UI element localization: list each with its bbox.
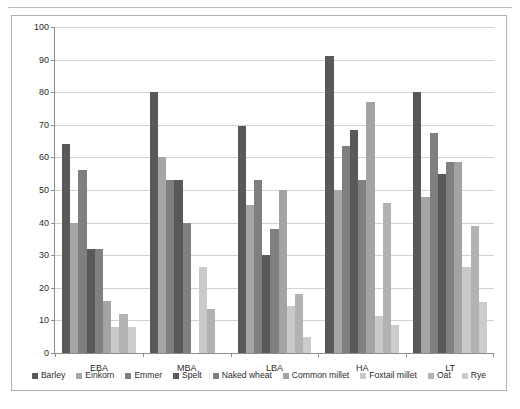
bar-oat-lt[interactable]: [471, 226, 479, 353]
legend-item-emmer[interactable]: Emmer: [125, 371, 162, 380]
legend-item-foxtail-millet[interactable]: Foxtail millet: [360, 371, 417, 380]
legend-label: Spelt: [182, 371, 202, 380]
bar-einkorn-lba[interactable]: [246, 205, 254, 353]
bar-naked-wheat-lba[interactable]: [270, 229, 278, 353]
legend-item-spelt[interactable]: Spelt: [173, 371, 202, 380]
bar-naked-wheat-lt[interactable]: [446, 162, 454, 353]
bar-einkorn-eba[interactable]: [70, 223, 78, 353]
y-axis-tick-label: 20: [39, 283, 49, 292]
bar-group-lt: LT: [406, 27, 494, 353]
legend-swatch-icon: [283, 373, 289, 379]
bar-group-ha: HA: [318, 27, 406, 353]
bar-rye-lba[interactable]: [303, 337, 311, 353]
bar-rye-lt[interactable]: [479, 302, 487, 353]
x-axis-tick-mark: [318, 353, 319, 357]
top-divider-rule: [8, 7, 512, 8]
legend-swatch-icon: [125, 373, 131, 379]
bar-group-mba: MBA: [143, 27, 231, 353]
legend-swatch-icon: [360, 373, 366, 379]
chart-legend: BarleyEinkornEmmerSpeltNaked wheatCommon…: [12, 371, 506, 380]
y-axis-tick-label: 50: [39, 186, 49, 195]
bar-foxtail-millet-ha[interactable]: [375, 316, 383, 353]
legend-label: Common millet: [292, 371, 349, 380]
legend-item-common-millet[interactable]: Common millet: [283, 371, 349, 380]
bar-rye-ha[interactable]: [391, 325, 399, 353]
y-axis-tick-label: 10: [39, 316, 49, 325]
legend-label: Oat: [437, 371, 451, 380]
bar-spelt-lba[interactable]: [262, 255, 270, 353]
legend-swatch-icon: [462, 373, 468, 379]
x-axis-tick-mark: [493, 353, 494, 357]
y-axis-tick-label: 90: [39, 55, 49, 64]
x-axis-tick-mark: [406, 353, 407, 357]
bar-emmer-mba[interactable]: [166, 180, 174, 353]
bar-einkorn-lt[interactable]: [421, 197, 429, 353]
bar-oat-eba[interactable]: [119, 314, 127, 353]
bar-group-lba: LBA: [231, 27, 319, 353]
bar-naked-wheat-ha[interactable]: [358, 180, 366, 353]
bar-barley-lt[interactable]: [413, 92, 421, 353]
legend-item-einkorn[interactable]: Einkorn: [76, 371, 114, 380]
bar-foxtail-millet-lt[interactable]: [462, 267, 470, 353]
legend-label: Foxtail millet: [369, 371, 417, 380]
y-axis-tick-label: 60: [39, 153, 49, 162]
bar-einkorn-ha[interactable]: [334, 190, 342, 353]
bar-barley-eba[interactable]: [62, 144, 70, 353]
legend-item-rye[interactable]: Rye: [462, 371, 486, 380]
legend-swatch-icon: [32, 373, 38, 379]
y-axis-tick-label: 30: [39, 251, 49, 260]
bar-einkorn-mba[interactable]: [158, 157, 166, 353]
bar-naked-wheat-eba[interactable]: [95, 249, 103, 353]
bar-barley-lba[interactable]: [238, 126, 246, 353]
bar-foxtail-millet-eba[interactable]: [111, 327, 119, 353]
legend-label: Rye: [471, 371, 486, 380]
plot-wrapper: 0102030405060708090100 EBAMBALBAHALT Bar…: [12, 16, 506, 390]
y-axis-tick-label: 100: [34, 23, 49, 32]
bar-emmer-ha[interactable]: [342, 146, 350, 353]
legend-label: Emmer: [134, 371, 162, 380]
bar-common-millet-lba[interactable]: [279, 190, 287, 353]
y-axis-tick-label: 70: [39, 120, 49, 129]
y-axis-tick-label: 0: [44, 349, 49, 358]
legend-item-barley[interactable]: Barley: [32, 371, 65, 380]
plot-area: 0102030405060708090100 EBAMBALBAHALT: [54, 27, 494, 354]
bar-spelt-mba[interactable]: [174, 180, 182, 353]
x-axis-tick-mark: [231, 353, 232, 357]
bar-emmer-lba[interactable]: [254, 180, 262, 353]
chart-frame: 0102030405060708090100 EBAMBALBAHALT Bar…: [11, 15, 507, 391]
legend-swatch-icon: [76, 373, 82, 379]
bar-emmer-lt[interactable]: [430, 133, 438, 353]
legend-label: Einkorn: [85, 371, 114, 380]
legend-label: Barley: [41, 371, 65, 380]
legend-item-oat[interactable]: Oat: [428, 371, 451, 380]
legend-swatch-icon: [173, 373, 179, 379]
bar-spelt-lt[interactable]: [438, 174, 446, 353]
bar-spelt-ha[interactable]: [350, 130, 358, 353]
bar-common-millet-ha[interactable]: [366, 102, 374, 353]
bar-oat-lba[interactable]: [295, 294, 303, 353]
y-axis-tick-label: 80: [39, 88, 49, 97]
y-axis-tick-label: 40: [39, 218, 49, 227]
bar-oat-mba[interactable]: [207, 309, 215, 353]
bar-rye-eba[interactable]: [128, 327, 136, 353]
bar-groups: EBAMBALBAHALT: [55, 27, 494, 353]
legend-swatch-icon: [428, 373, 434, 379]
x-axis-tick-mark: [55, 353, 56, 357]
bar-foxtail-millet-mba[interactable]: [199, 267, 207, 353]
bar-emmer-eba[interactable]: [78, 170, 86, 353]
bar-barley-mba[interactable]: [150, 92, 158, 353]
x-axis-tick-mark: [143, 353, 144, 357]
bar-barley-ha[interactable]: [325, 56, 333, 353]
bar-spelt-eba[interactable]: [87, 249, 95, 353]
bar-common-millet-lt[interactable]: [454, 162, 462, 353]
bar-naked-wheat-mba[interactable]: [183, 223, 191, 353]
bar-foxtail-millet-lba[interactable]: [287, 306, 295, 353]
legend-label: Naked wheat: [222, 371, 272, 380]
legend-item-naked-wheat[interactable]: Naked wheat: [213, 371, 272, 380]
legend-swatch-icon: [213, 373, 219, 379]
bar-group-eba: EBA: [55, 27, 143, 353]
bar-oat-ha[interactable]: [383, 203, 391, 353]
bar-common-millet-eba[interactable]: [103, 301, 111, 353]
